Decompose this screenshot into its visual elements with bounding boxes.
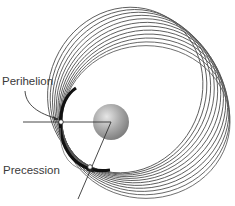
precession-label: Precession bbox=[3, 165, 60, 177]
orbit-ellipse bbox=[54, 34, 235, 203]
perihelion-point bbox=[59, 120, 64, 125]
orbit-ellipse bbox=[41, 13, 235, 206]
perihelion-label: Perihelion bbox=[2, 76, 53, 88]
reference-line-tilted bbox=[78, 122, 111, 199]
orbit-ellipse bbox=[47, 23, 235, 206]
precession-diagram: Perihelion Precession bbox=[0, 0, 235, 206]
orbit-ellipse bbox=[35, 4, 235, 206]
perihelion-point bbox=[88, 165, 93, 170]
